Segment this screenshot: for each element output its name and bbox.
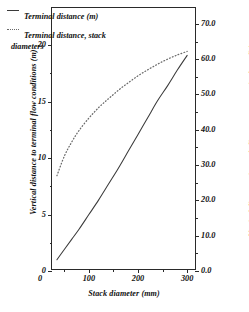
legend-solid-line-icon xyxy=(7,10,19,11)
legend-item-label: Terminal distance, stack diameters xyxy=(7,31,138,52)
legend-dotted-line-icon xyxy=(7,29,19,30)
y-axis-right-tick xyxy=(195,253,198,254)
chart-legend: Terminal distance (m) Terminal distance,… xyxy=(7,5,138,53)
legend-item: Terminal distance (m) xyxy=(7,5,138,23)
y-axis-left-tick-label: 5 xyxy=(42,210,46,218)
y-axis-right-tick xyxy=(195,77,198,78)
legend-item-label: Terminal distance (m) xyxy=(24,12,98,21)
y-axis-left-tick xyxy=(50,73,53,74)
x-axis-tick xyxy=(113,269,114,272)
y-axis-right-tick-label: 20.0 xyxy=(201,196,216,204)
y-axis-right-tick xyxy=(195,183,198,184)
x-axis-tick-label: 200 xyxy=(132,275,144,283)
y-axis-right-tick xyxy=(195,24,199,25)
y-axis-right-tick xyxy=(195,94,199,95)
y-axis-left-zero-label: 0 xyxy=(38,275,42,283)
x-axis-tick xyxy=(64,269,65,272)
y-axis-right-tick xyxy=(195,112,198,113)
y-axis-right-tick-label: 10.0 xyxy=(201,232,216,240)
y-axis-right-tick xyxy=(195,165,199,166)
legend-item: Terminal distance, stack diameters xyxy=(7,24,138,52)
y-axis-right-tick-label: 40.0 xyxy=(201,126,216,134)
series-line-terminal-distance-stack-diameters xyxy=(57,51,187,175)
y-axis-right-tick xyxy=(195,271,199,272)
y-axis-right-tick xyxy=(195,130,199,131)
y-axis-right-tick xyxy=(195,236,199,237)
y-axis-left-tick xyxy=(50,186,53,187)
y-axis-left-tick xyxy=(50,130,53,131)
x-axis-tick-label: 100 xyxy=(83,275,95,283)
y-axis-right-tick-label: 70.0 xyxy=(201,20,216,28)
y-axis-right-tick-label: 50.0 xyxy=(201,90,216,98)
y-axis-left-tick xyxy=(48,158,52,159)
series-line-terminal-distance-m xyxy=(57,55,187,259)
y-axis-right-tick xyxy=(195,147,198,148)
y-axis-left-tick-label: 10 xyxy=(38,154,46,162)
y-axis-left-tick-label: 0 xyxy=(42,267,46,275)
x-axis-tick xyxy=(187,269,188,273)
y-axis-right-tick-label: 30.0 xyxy=(201,161,216,169)
y-axis-left-tick xyxy=(48,271,52,272)
y-axis-right-tick xyxy=(195,200,199,201)
y-axis-left-tick-label: 15 xyxy=(38,98,46,106)
y-axis-left-tick xyxy=(48,102,52,103)
legend-item-label-main: Terminal distance, stack xyxy=(24,31,106,40)
y-axis-right-tick-label: 0.0 xyxy=(201,267,211,275)
y-axis-left-tick xyxy=(50,243,53,244)
x-axis-tick xyxy=(89,269,90,273)
y-axis-right-tick xyxy=(195,59,199,60)
chart-figure: Vertical distance to terminal flow condi… xyxy=(0,0,249,312)
y-axis-right-tick xyxy=(195,42,198,43)
x-axis-tick xyxy=(138,269,139,273)
x-axis-title: Stack diameter (mm) xyxy=(51,290,197,298)
y-axis-left-tick xyxy=(48,215,52,216)
y-axis-right-tick xyxy=(195,218,198,219)
x-axis-tick-label: 300 xyxy=(181,275,193,283)
legend-item-label-continuation: diameters xyxy=(11,42,138,52)
y-axis-right-tick-label: 60.0 xyxy=(201,55,216,63)
x-axis-tick xyxy=(163,269,164,272)
